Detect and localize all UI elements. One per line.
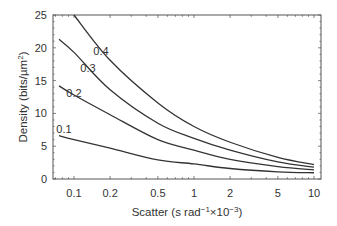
- x-tick-label: 2: [227, 187, 233, 199]
- x-tick-labels: 0.10.20.512510: [66, 187, 320, 199]
- x-tick-label: 10: [308, 187, 320, 199]
- y-tick-labels: 0510152025: [35, 9, 47, 185]
- curve-label: 0.4: [93, 45, 108, 57]
- x-tick-label: 5: [275, 187, 281, 199]
- y-tick-label: 5: [41, 140, 47, 152]
- y-tick-label: 0: [41, 173, 47, 185]
- x-axis-label: Scatter (s rad−1×10−3): [132, 205, 243, 218]
- curves: [59, 15, 314, 173]
- curve-0-1: [59, 136, 314, 173]
- x-tick-label: 0.5: [150, 187, 165, 199]
- curve-label: 0.2: [66, 87, 81, 99]
- y-tick-label: 15: [35, 75, 47, 87]
- curve-label: 0.1: [56, 123, 71, 135]
- y-tick-label: 25: [35, 9, 47, 21]
- x-tick-label: 0.2: [102, 187, 117, 199]
- curve-labels: 0.40.30.20.1: [56, 45, 108, 135]
- y-tick-label: 10: [35, 107, 47, 119]
- y-axis-label: Density (bits/µm2): [16, 51, 29, 142]
- curve-label: 0.3: [80, 62, 95, 74]
- x-tick-label: 0.1: [66, 187, 81, 199]
- y-tick-label: 20: [35, 42, 47, 54]
- x-tick-label: 1: [191, 187, 197, 199]
- density-vs-scatter-chart: 0.40.30.20.1 0.10.20.512510 0510152025 S…: [0, 0, 337, 226]
